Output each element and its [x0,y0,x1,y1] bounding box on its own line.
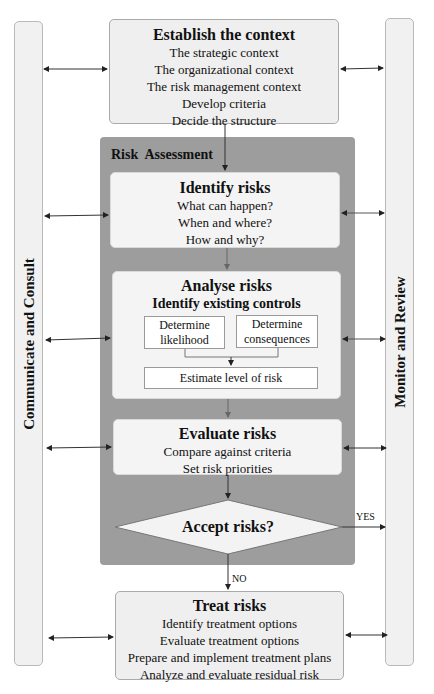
analyse-risks-title: Analyse risks [113,276,340,295]
communicate-consult-label: Communicate and Consult [20,258,37,430]
no-label: NO [232,573,246,584]
evaluate-line: Compare against criteria [114,443,341,460]
estimate-level-box: Estimate level of risk [144,367,318,389]
monitor-review-bar: Monitor and Review [385,18,414,666]
communicate-consult-bar: Communicate and Consult [14,21,43,666]
determine-consequences-label: Determine consequences [244,317,310,346]
identify-line: How and why? [111,231,339,248]
analyse-risks-subtitle: Identify existing controls [113,295,340,313]
treat-line: Prepare and implement treatment plans [116,649,343,666]
identify-risks-box: Identify risks What can happen? When and… [110,172,340,248]
left-arrow-treat [49,637,113,638]
treat-line: Identify treatment options [116,615,343,632]
identify-risks-title: Identify risks [111,178,339,197]
accept-risks-label: Accept risks? [160,517,296,536]
establish-line: The organizational context [110,61,338,78]
establish-line: The strategic context [110,44,338,61]
treat-line: Analyze and evaluate residual risk [116,666,343,683]
evaluate-risks-box: Evaluate risks Compare against criteria … [113,419,342,475]
risk-assessment-title: Risk Assessment [111,147,213,163]
establish-context-box: Establish the context The strategic cont… [109,19,339,124]
identify-line: When and where? [111,214,339,231]
evaluate-risks-title: Evaluate risks [114,424,341,443]
treat-risks-title: Treat risks [116,596,343,615]
determine-likelihood-box: Determine likelihood [144,316,225,349]
determine-consequences-box: Determine consequences [236,315,318,348]
identify-line: What can happen? [111,197,339,214]
establish-context-title: Establish the context [110,25,338,44]
right-arrow-establish [341,68,383,69]
establish-line: Decide the structure [110,112,338,129]
treat-risks-box: Treat risks Identify treatment options E… [115,591,344,680]
left-arrow-identify [45,215,108,216]
monitor-review-label: Monitor and Review [391,276,408,407]
yes-label: YES [356,511,375,522]
determine-likelihood-label: Determine likelihood [159,318,210,347]
evaluate-line: Set risk priorities [114,460,341,477]
establish-line: The risk management context [110,78,338,95]
treat-line: Evaluate treatment options [116,632,343,649]
establish-line: Develop criteria [110,95,338,112]
estimate-level-label: Estimate level of risk [180,371,282,385]
